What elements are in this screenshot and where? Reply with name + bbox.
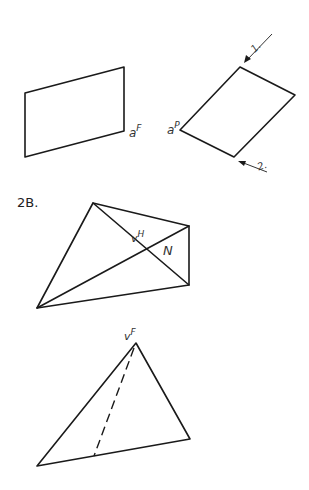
- face-label-n: N: [163, 243, 173, 258]
- front-view-label: aF: [129, 123, 142, 140]
- problem-title: 2B.: [17, 195, 38, 210]
- view-arrow-2: 2.: [238, 159, 268, 173]
- plane-view-parallelogram: [180, 67, 295, 157]
- vertex-top-label: vH: [131, 229, 145, 245]
- arrowhead-icon: [244, 55, 251, 63]
- plane-view-label: aP: [167, 120, 180, 137]
- front-view-parallelogram: [25, 67, 124, 157]
- arrow-1-label: 1.: [248, 40, 263, 55]
- arrow-2-label: 2.: [256, 159, 269, 173]
- front-view-pyramid: [37, 343, 190, 466]
- view-arrow-1: 1.: [244, 34, 272, 63]
- arrowhead-icon: [238, 161, 246, 166]
- hidden-edge: [94, 348, 134, 456]
- vertex-front-label: vF: [124, 327, 137, 343]
- drawing-canvas: aF aP 1. 2. 2B. vH N vF: [0, 0, 309, 490]
